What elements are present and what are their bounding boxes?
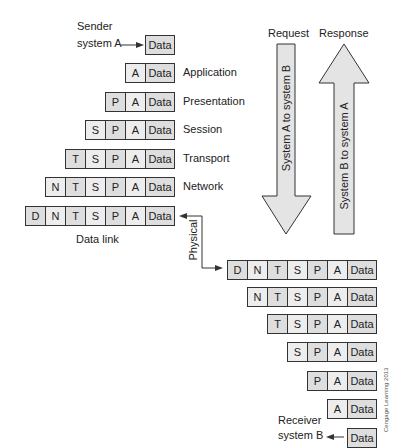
physical-connector-icon	[179, 213, 223, 271]
request-arrow-text: System A to system B	[280, 58, 292, 178]
copyright-credit: Cengage Learning 2013	[383, 368, 389, 432]
response-arrow-text: System B to system A	[338, 96, 350, 216]
physical-label: Physical	[187, 215, 199, 265]
receiver-arrow-icon	[326, 434, 344, 440]
sender-arrow-icon	[121, 42, 144, 48]
